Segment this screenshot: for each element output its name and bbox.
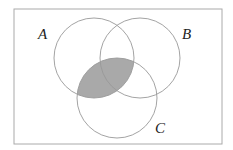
label-c: C	[155, 120, 166, 136]
label-b: B	[182, 26, 191, 42]
label-a: A	[37, 26, 48, 42]
venn-diagram: A B C	[0, 0, 233, 150]
